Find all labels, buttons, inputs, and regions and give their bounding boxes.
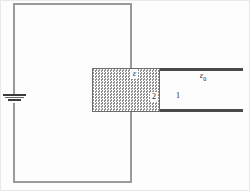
circuit-wire-left-upper <box>13 3 15 94</box>
capacitor-dielectric-figure: ε 2 1 ε0 <box>0 0 250 191</box>
battery-plate-inner <box>5 97 24 98</box>
battery-positive-plate <box>3 94 26 96</box>
dielectric-slab <box>92 68 160 112</box>
label-vacuum-permittivity-subscript: 0 <box>203 76 206 82</box>
circuit-wire-left-lower <box>13 103 15 183</box>
circuit-wire-bottom <box>13 181 132 183</box>
capacitor-bottom-plate <box>159 109 243 112</box>
label-dielectric-permittivity: ε <box>131 69 138 79</box>
label-region-2: 2 <box>150 92 158 102</box>
label-vacuum-permittivity: ε0 <box>200 72 206 82</box>
battery-negative-plate <box>8 99 21 101</box>
label-region-1: 1 <box>176 92 180 100</box>
circuit-wire-top <box>13 3 132 5</box>
